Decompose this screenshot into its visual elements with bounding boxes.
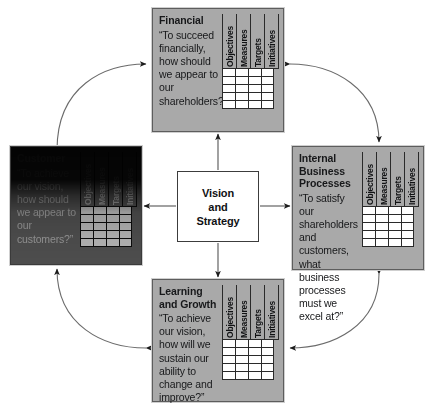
scorecard-table-internal: Objectives Measures Targets Initiatives <box>362 152 419 247</box>
perspective-title-financial: Financial <box>159 14 219 27</box>
table-row <box>222 348 279 356</box>
table-cell <box>119 231 132 239</box>
table-row <box>222 85 279 93</box>
table-cell <box>106 239 119 247</box>
perspective-box-financial: Financial “To succeed financially, how s… <box>152 8 284 132</box>
table-cell <box>261 364 274 372</box>
table-cell <box>375 207 388 215</box>
scorecard-table-customer: Objectives Measures Targets Initiatives <box>80 152 137 247</box>
table-cell <box>106 207 119 215</box>
table-cell <box>222 93 235 101</box>
table-cell <box>222 69 235 77</box>
table-cell <box>80 223 93 231</box>
table-cell <box>375 239 388 247</box>
scorecard-table-financial: Objectives Measures Targets Initiatives <box>222 14 279 109</box>
table-cell <box>80 239 93 247</box>
table-cell <box>362 223 375 231</box>
table-cell <box>375 215 388 223</box>
table-header-objectives: Objectives <box>222 285 236 339</box>
table-cell <box>222 85 235 93</box>
table-body <box>222 68 279 109</box>
table-cell <box>248 356 261 364</box>
perspective-title-customer: Customer <box>17 152 77 165</box>
table-header-measures: Measures <box>236 285 250 339</box>
table-header-measures: Measures <box>94 152 108 206</box>
table-cell <box>222 101 235 109</box>
perspective-question-internal: “To satisfy our shareholders and custome… <box>299 192 359 324</box>
table-cell <box>93 207 106 215</box>
table-row <box>80 215 137 223</box>
table-header-row: Objectives Measures Targets Initiatives <box>222 14 279 68</box>
table-cell <box>222 364 235 372</box>
curve-learning-customer <box>57 269 146 348</box>
table-cell <box>93 223 106 231</box>
table-cell <box>119 223 132 231</box>
curve-customer-financial <box>57 64 146 150</box>
table-row <box>222 340 279 348</box>
table-row <box>222 101 279 109</box>
table-cell <box>362 215 375 223</box>
table-header-initiatives: Initiatives <box>264 14 279 68</box>
table-cell <box>261 340 274 348</box>
table-cell <box>261 101 274 109</box>
table-cell <box>235 69 248 77</box>
table-cell <box>375 223 388 231</box>
table-cell <box>222 340 235 348</box>
table-cell <box>80 215 93 223</box>
table-cell <box>362 239 375 247</box>
table-row <box>222 372 279 380</box>
table-cell <box>222 348 235 356</box>
table-cell <box>248 69 261 77</box>
table-cell <box>235 340 248 348</box>
perspective-question-customer: “To achieve our vision, how should we ap… <box>17 167 77 246</box>
perspective-title-learning: Learning and Growth <box>159 285 219 310</box>
table-cell <box>93 215 106 223</box>
table-cell <box>261 372 274 380</box>
table-cell <box>248 101 261 109</box>
table-cell <box>261 77 274 85</box>
table-cell <box>401 207 414 215</box>
table-cell <box>119 239 132 247</box>
table-cell <box>401 239 414 247</box>
table-cell <box>388 239 401 247</box>
table-cell <box>222 372 235 380</box>
curve-financial-internal <box>290 64 379 142</box>
table-cell <box>362 207 375 215</box>
table-cell <box>80 207 93 215</box>
table-cell <box>362 231 375 239</box>
table-cell <box>235 364 248 372</box>
table-cell <box>401 231 414 239</box>
table-row <box>362 207 419 215</box>
table-cell <box>261 93 274 101</box>
table-cell <box>248 364 261 372</box>
table-cell <box>248 348 261 356</box>
table-cell <box>401 215 414 223</box>
table-cell <box>375 231 388 239</box>
perspective-title-internal: Internal Business Processes <box>299 152 359 190</box>
table-header-targets: Targets <box>108 152 122 206</box>
table-cell <box>401 223 414 231</box>
table-row <box>222 364 279 372</box>
table-header-row: Objectives Measures Targets Initiatives <box>80 152 137 206</box>
perspective-question-learning: “To achieve our vision, how will we sust… <box>159 312 219 404</box>
table-cell <box>235 372 248 380</box>
table-row <box>222 93 279 101</box>
table-cell <box>261 85 274 93</box>
table-cell <box>388 223 401 231</box>
table-header-measures: Measures <box>236 14 250 68</box>
table-row <box>80 223 137 231</box>
table-row <box>80 239 137 247</box>
table-header-targets: Targets <box>250 14 264 68</box>
table-cell <box>248 340 261 348</box>
perspective-question-financial: “To succeed financially, how should we a… <box>159 29 219 108</box>
vision-and-strategy-box: Vision and Strategy <box>177 171 259 242</box>
table-cell <box>235 85 248 93</box>
table-body <box>362 206 419 247</box>
table-cell <box>235 348 248 356</box>
table-header-row: Objectives Measures Targets Initiatives <box>362 152 419 206</box>
vision-line-2: and <box>208 200 227 214</box>
table-cell <box>388 215 401 223</box>
table-row <box>362 239 419 247</box>
table-cell <box>248 85 261 93</box>
table-cell <box>235 93 248 101</box>
